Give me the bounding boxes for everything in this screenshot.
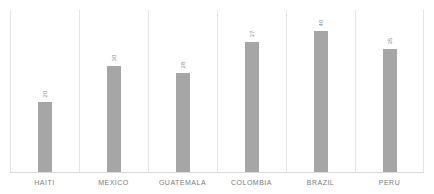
- bar-guatemala[interactable]: [176, 73, 190, 172]
- category-axis-labels: HAITI MEXICO GUATEMALA COLOMBIA BRAZIL P…: [10, 174, 424, 194]
- bar-column-colombia: 37: [217, 10, 286, 172]
- bar-columns: 20 30 28 37 40 35: [10, 10, 424, 172]
- bar-value-label: 37: [248, 30, 256, 37]
- bar-peru[interactable]: [383, 49, 397, 172]
- bar-value-label: 35: [386, 37, 394, 44]
- bar-column-haiti: 20: [10, 10, 79, 172]
- bar-haiti[interactable]: [38, 102, 52, 172]
- bar-value-label: 30: [110, 54, 118, 61]
- category-label-guatemala: GUATEMALA: [148, 174, 217, 194]
- bar-mexico[interactable]: [107, 66, 121, 172]
- bar-chart: 20 30 28 37 40 35 HAITI MEXICO GUATEMALA: [0, 0, 434, 194]
- category-label-peru: PERU: [355, 174, 424, 194]
- bar-value-label: 20: [41, 90, 49, 97]
- axis-baseline: [10, 172, 424, 173]
- category-label-colombia: COLOMBIA: [217, 174, 286, 194]
- bar-colombia[interactable]: [245, 42, 259, 172]
- category-label-haiti: HAITI: [10, 174, 79, 194]
- bar-column-brazil: 40: [286, 10, 355, 172]
- bar-column-guatemala: 28: [148, 10, 217, 172]
- bar-brazil[interactable]: [314, 31, 328, 172]
- bar-value-label: 28: [179, 61, 187, 68]
- category-label-brazil: BRAZIL: [286, 174, 355, 194]
- bar-value-label: 40: [317, 19, 325, 26]
- bar-column-peru: 35: [355, 10, 424, 172]
- bar-column-mexico: 30: [79, 10, 148, 172]
- category-label-mexico: MEXICO: [79, 174, 148, 194]
